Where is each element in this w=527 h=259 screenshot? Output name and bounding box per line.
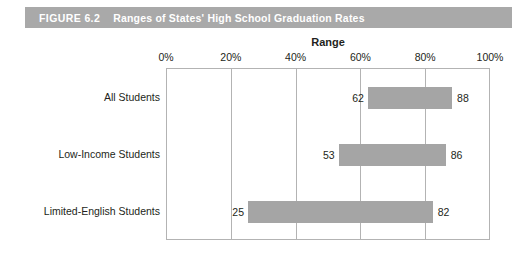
plot-area: 628853862582 [166,68,490,240]
x-tick-label-60: 60% [350,51,371,63]
bar-high-value-label: 82 [438,206,450,218]
x-axis-title: Range [166,36,490,48]
x-tick-label-80: 80% [415,51,436,63]
bar-high-value-label: 86 [451,149,463,161]
x-tick-label-20: 20% [220,51,241,63]
bar-low-value-label: 62 [352,92,364,104]
category-label: All Students [0,91,160,103]
range-bar [339,144,446,166]
range-bar [368,87,452,109]
x-tick-label-40: 40% [285,51,306,63]
bar-low-value-label: 53 [323,149,335,161]
bar-high-value-label: 88 [457,92,469,104]
category-label: Limited-English Students [0,205,160,217]
range-bar-chart: Range 0%20%40%60%80%100% 628853862582 Al… [0,0,527,259]
category-label: Low-Income Students [0,148,160,160]
x-tick-label-100: 100% [477,51,504,63]
x-tick-label-0: 0% [158,51,173,63]
range-bar [248,201,433,223]
bar-low-value-label: 25 [232,206,244,218]
